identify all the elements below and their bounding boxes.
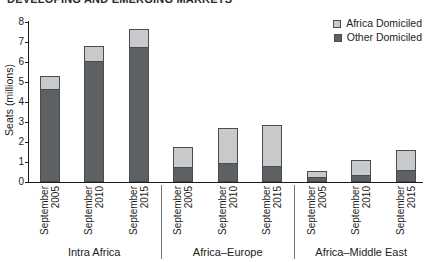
legend: Africa Domiciled Other Domiciled [333,17,422,44]
x-tick-label: September2010 [83,186,105,244]
y-tick-mark [25,122,28,123]
segment-other-domiciled [307,178,327,182]
bar-september-2010 [218,128,238,182]
x-tick-label: September2005 [306,186,328,244]
y-tick-mark [25,62,28,63]
segment-other-domiciled [396,171,416,182]
bar-september-2005 [40,76,60,182]
bar-september-2005 [307,171,327,182]
y-tick-mark [25,162,28,163]
bar-september-2010 [84,46,104,182]
legend-item-other-domiciled: Other Domiciled [333,31,422,44]
x-axis-line [28,182,423,183]
group-label: Africa–Europe [193,246,263,258]
segment-africa-domiciled [173,147,193,168]
y-tick-label: 1 [6,156,24,168]
segment-other-domiciled [218,164,238,182]
x-tick-label: September2010 [217,186,239,244]
x-tick-label: September2005 [172,186,194,244]
segment-africa-domiciled [396,150,416,171]
y-tick-mark [25,22,28,23]
y-tick-label: 3 [6,116,24,128]
segment-other-domiciled [129,48,149,182]
bar-september-2015 [262,125,282,182]
x-tick-label: September2015 [395,186,417,244]
legend-swatch-dark-icon [334,34,342,42]
legend-item-africa-domiciled: Africa Domiciled [333,17,422,30]
y-tick-mark [25,182,28,183]
segment-other-domiciled [351,176,371,182]
y-tick-label: 5 [6,76,24,88]
segment-africa-domiciled [262,125,282,167]
y-tick-label: 8 [6,16,24,28]
y-tick-label: 7 [6,36,24,48]
y-axis-line [28,21,29,183]
segment-other-domiciled [262,167,282,182]
segment-other-domiciled [173,168,193,182]
y-tick-mark [25,82,28,83]
group-label: Intra Africa [68,246,121,258]
legend-label: Other Domiciled [347,31,422,44]
stacked-bar-chart: DEVELOPING AND EMERGING MARKETS Africa D… [0,0,425,262]
segment-other-domiciled [40,90,60,182]
y-tick-mark [25,142,28,143]
y-tick-label: 0 [6,176,24,188]
x-tick-label: September2005 [39,186,61,244]
y-tick-label: 2 [6,136,24,148]
group-separator [161,185,162,259]
bar-september-2010 [351,160,371,182]
segment-africa-domiciled [40,76,60,90]
segment-africa-domiciled [129,29,149,48]
legend-swatch-light-icon [333,20,341,28]
y-tick-label: 6 [6,56,24,68]
x-tick-label: September2015 [261,186,283,244]
x-tick-label: September2015 [128,186,150,244]
segment-africa-domiciled [351,160,371,176]
segment-africa-domiciled [307,171,327,178]
bar-september-2015 [129,29,149,182]
legend-label: Africa Domiciled [346,17,422,30]
y-tick-label: 4 [6,96,24,108]
segment-africa-domiciled [84,46,104,62]
group-separator [294,185,295,259]
segment-other-domiciled [84,62,104,182]
group-label: Africa–Middle East [315,246,407,258]
y-tick-mark [25,42,28,43]
segment-africa-domiciled [218,128,238,164]
bar-september-2015 [396,150,416,182]
x-tick-label: September2010 [350,186,372,244]
chart-title: DEVELOPING AND EMERGING MARKETS [7,0,232,5]
y-tick-mark [25,102,28,103]
bar-september-2005 [173,147,193,182]
